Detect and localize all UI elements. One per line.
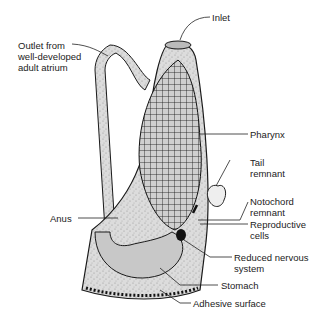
inlet-opening <box>165 41 191 49</box>
label-notochord-remnant: Notochord remnant <box>250 196 294 218</box>
tail-remnant <box>207 185 225 206</box>
label-reduced-nervous-system: Reduced nervous system <box>234 252 308 274</box>
label-tail-remnant: Tail remnant <box>250 157 285 179</box>
label-stomach: Stomach <box>221 280 259 291</box>
nervous-system <box>176 229 186 241</box>
label-anus: Anus <box>50 213 72 224</box>
label-inlet: Inlet <box>212 12 230 23</box>
label-outlet: Outlet from well-developed adult atrium <box>18 40 81 73</box>
label-adhesive-surface: Adhesive surface <box>193 298 266 309</box>
label-reproductive-cells: Reproductive cells <box>250 219 306 241</box>
label-pharynx: Pharynx <box>250 129 285 140</box>
